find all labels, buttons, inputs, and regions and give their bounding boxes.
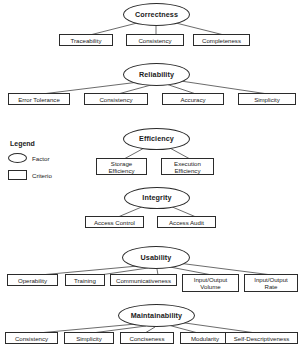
legend-item-label: Factor xyxy=(32,155,50,162)
factor-usability[interactable]: Usability xyxy=(122,246,190,269)
criterion-label: Modularity xyxy=(191,335,219,342)
criterion-storage-efficiency[interactable]: Storage Efficiency xyxy=(96,158,147,175)
criterion-input-output-volume[interactable]: Input/Output Volume xyxy=(182,274,239,292)
criterion-accuracy[interactable]: Accuracy xyxy=(162,93,224,105)
factor-efficiency[interactable]: Efficiency xyxy=(123,128,190,150)
criterion-completeness[interactable]: Completeness xyxy=(193,34,250,46)
criterion-label: Error Tolerance xyxy=(18,96,60,103)
criterion-communicativeness[interactable]: Communicativeness xyxy=(110,274,177,286)
rectangle-icon xyxy=(8,170,27,180)
criterion-simplicity[interactable]: Simplicity xyxy=(64,332,114,344)
criterion-input-output-rate[interactable]: Input/Output Rate xyxy=(244,274,298,292)
legend-title: Legend xyxy=(8,140,78,147)
legend-item-factor: Factor xyxy=(8,153,78,163)
criterion-traceability[interactable]: Traceability xyxy=(59,34,113,46)
factor-integrity[interactable]: Integrity xyxy=(124,187,190,209)
criterion-label: Simplicity xyxy=(76,335,102,342)
factor-label: Maintainability xyxy=(131,312,182,320)
legend-item-label: Criterio xyxy=(32,172,52,179)
criterion-label: Operability xyxy=(18,277,47,284)
criterion-label: Communicativeness xyxy=(116,277,171,284)
factor-label: Reliability xyxy=(139,71,174,79)
criterion-modularity[interactable]: Modularity xyxy=(180,332,230,344)
criterion-label: Completeness xyxy=(202,37,241,44)
criterion-consistency[interactable]: Consistency xyxy=(126,34,184,46)
criterion-label: Self-Descriptiveness xyxy=(234,335,290,342)
criterion-label: Storage Efficiency xyxy=(109,160,135,174)
criterion-label: Training xyxy=(74,277,96,284)
factor-label: Usability xyxy=(141,254,172,262)
factor-label: Integrity xyxy=(142,194,171,202)
criterion-consistency[interactable]: Consistency xyxy=(5,332,58,344)
criterion-label: Traceability xyxy=(71,37,102,44)
criterion-label: Consistency xyxy=(99,96,132,103)
criterion-label: Input/Output Rate xyxy=(254,276,288,290)
criterion-consistency[interactable]: Consistency xyxy=(84,93,148,105)
factor-maintainability[interactable]: Maintainability xyxy=(118,304,195,327)
criterion-label: Consistency xyxy=(138,37,171,44)
criterion-training[interactable]: Training xyxy=(65,274,105,286)
criterion-conciseness[interactable]: Conciseness xyxy=(120,332,174,344)
criterion-self-descriptiveness[interactable]: Self-Descriptiveness xyxy=(225,332,298,344)
criterion-access-audit[interactable]: Access Audit xyxy=(157,216,216,228)
criterion-access-control[interactable]: Access Control xyxy=(85,216,144,228)
legend: Legend Factor Criterio xyxy=(8,140,78,187)
factor-correctness[interactable]: Correctness xyxy=(123,3,190,26)
factor-label: Correctness xyxy=(135,11,178,19)
criterion-operability[interactable]: Operability xyxy=(7,274,58,286)
criterion-simplicity[interactable]: Simplicity xyxy=(238,93,296,105)
factor-label: Efficiency xyxy=(139,135,174,143)
ellipse-icon xyxy=(8,153,27,163)
criterion-label: Execution Efficiency xyxy=(174,160,201,174)
criterion-label: Simplicity xyxy=(254,96,280,103)
criterion-execution-efficiency[interactable]: Execution Efficiency xyxy=(161,158,214,175)
factor-reliability[interactable]: Reliability xyxy=(123,63,190,86)
legend-item-criterio: Criterio xyxy=(8,170,78,180)
criterion-label: Access Control xyxy=(94,219,135,226)
criterion-label: Conciseness xyxy=(130,335,165,342)
criterion-error-tolerance[interactable]: Error Tolerance xyxy=(8,93,70,105)
criterion-label: Accuracy xyxy=(180,96,205,103)
criterion-label: Input/Output Volume xyxy=(194,276,228,290)
quality-model-diagram: Correctness Traceability Consistency Com… xyxy=(0,0,303,353)
criterion-label: Consistency xyxy=(15,335,48,342)
criterion-label: Access Audit xyxy=(169,219,204,226)
